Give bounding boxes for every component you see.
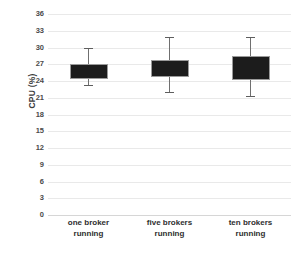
y-tick-label-15: 15 [22, 127, 44, 135]
x-label-2: ten brokersrunning [210, 217, 291, 239]
box-plot-group [151, 14, 189, 215]
y-tick-label-33: 33 [22, 27, 44, 35]
x-axis-category-labels: one brokerrunningfive brokersrunningten … [48, 217, 291, 251]
y-tick-label-18: 18 [22, 111, 44, 119]
gridline-0 [48, 215, 291, 216]
y-tick-label-3: 3 [22, 194, 44, 202]
box-rect [70, 64, 108, 79]
box-plot-group [70, 14, 108, 215]
box-rect [151, 60, 189, 77]
x-label-0: one brokerrunning [48, 217, 129, 239]
y-axis-tick-labels: 3633302724211815129630 [22, 0, 44, 253]
whisker-cap-upper [165, 37, 174, 38]
plot-area [48, 14, 291, 215]
y-tick-label-9: 9 [22, 161, 44, 169]
box-rect [232, 56, 270, 81]
whisker-cap-upper [246, 37, 255, 38]
y-tick-label-6: 6 [22, 178, 44, 186]
box-plot-group [232, 14, 270, 215]
x-label-1: five brokersrunning [129, 217, 210, 239]
box-plot-chart: CPU (%) 3633302724211815129630 one broke… [0, 0, 305, 253]
y-tick-label-30: 30 [22, 44, 44, 52]
whisker-cap-lower [165, 92, 174, 93]
y-tick-label-12: 12 [22, 144, 44, 152]
y-tick-label-36: 36 [22, 10, 44, 18]
whisker-cap-upper [84, 48, 93, 49]
y-tick-label-27: 27 [22, 60, 44, 68]
whisker-cap-lower [246, 96, 255, 97]
y-tick-label-24: 24 [22, 77, 44, 85]
y-tick-label-0: 0 [22, 211, 44, 219]
y-tick-label-21: 21 [22, 94, 44, 102]
whisker-cap-lower [84, 85, 93, 86]
